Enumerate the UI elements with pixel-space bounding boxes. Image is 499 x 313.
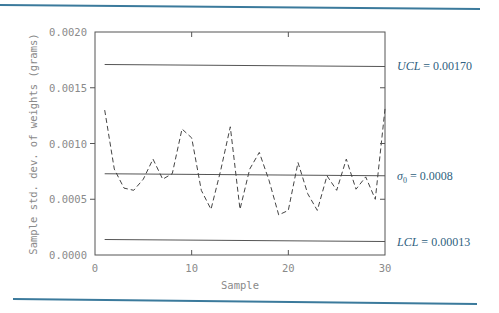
x-axis-title: Sample <box>221 279 259 291</box>
bottom-rule <box>13 299 477 304</box>
y-tick-label: 0.0005 <box>49 193 87 205</box>
y-tick-label: 0.0010 <box>49 138 87 150</box>
y-tick-label: 0.0000 <box>49 249 87 261</box>
ucl-line <box>105 64 385 66</box>
data-series <box>105 109 385 215</box>
chart-canvas: 0102030 0.00000.00050.00100.00150.0020 U… <box>0 0 499 313</box>
control-chart: 0102030 0.00000.00050.00100.00150.0020 U… <box>0 0 499 313</box>
control-limit-labels: UCL = 0.00170σ0 = 0.0008LCL = 0.00013 <box>396 59 472 248</box>
lcl-label: LCL = 0.00013 <box>396 235 470 249</box>
center-label: σ0 = 0.0008 <box>397 169 453 185</box>
y-axis-title: Sample std. dev. of weights (grams) <box>27 33 39 254</box>
x-axis-ticks: 0102030 <box>92 32 391 274</box>
ucl-label: UCL = 0.00170 <box>397 59 472 73</box>
control-limit-lines <box>105 64 385 241</box>
y-tick-label: 0.0015 <box>49 82 87 94</box>
x-tick-label: 20 <box>282 262 295 274</box>
center-line <box>105 174 385 176</box>
lcl-line <box>105 240 385 242</box>
sample-std-dev-line <box>105 109 385 215</box>
top-rule <box>0 5 480 9</box>
y-tick-label: 0.0020 <box>49 26 87 38</box>
x-tick-label: 0 <box>92 262 98 274</box>
y-axis-ticks: 0.00000.00050.00100.00150.0020 <box>49 26 385 261</box>
x-tick-label: 10 <box>185 262 198 274</box>
x-tick-label: 30 <box>379 262 392 274</box>
